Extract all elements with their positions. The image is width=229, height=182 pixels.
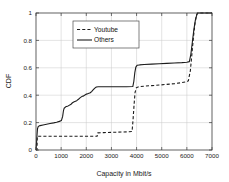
cdf-chart-figure: 0100020003000400050006000700000.20.40.60… [0,0,229,182]
chart-legend[interactable]: YoutubeOthers [73,21,139,48]
x-axis-title: Capacity in Mbit/s [96,170,152,178]
x-tick-label: 7000 [205,152,219,159]
legend-label-others[interactable]: Others [94,36,114,43]
x-tick-label: 4000 [130,152,144,159]
y-tick-label: 0.4 [23,92,32,99]
x-tick-label: 6000 [180,152,194,159]
y-tick-label: 1 [29,9,33,16]
y-axis-title: CDF [5,74,12,88]
x-tick-label: 2000 [79,152,93,159]
x-tick-label: 0 [34,152,38,159]
x-tick-label: 3000 [105,152,119,159]
y-tick-label: 0.8 [23,37,32,44]
legend-label-youtube[interactable]: Youtube [94,26,118,33]
y-tick-label: 0 [29,146,33,153]
x-tick-label: 1000 [54,152,68,159]
chart-canvas: 0100020003000400050006000700000.20.40.60… [0,0,229,182]
x-tick-label: 5000 [155,152,169,159]
y-tick-label: 0.2 [23,119,32,126]
y-tick-label: 0.6 [23,64,32,71]
